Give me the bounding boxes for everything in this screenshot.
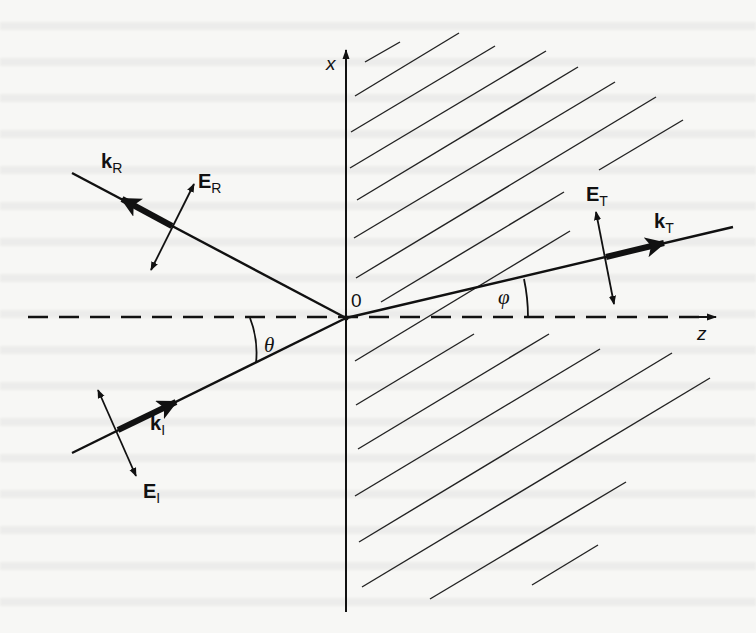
incident-e-label: EI — [143, 480, 160, 506]
phi-angle-label: φ — [498, 285, 510, 309]
reflected-k-label: kR — [101, 150, 122, 176]
origin-point — [344, 316, 349, 321]
transmitted-wave: kT ET — [346, 183, 733, 318]
theta-angle-arc — [250, 318, 257, 363]
z-axis-label: z — [696, 323, 707, 344]
reflected-e-label: ER — [198, 170, 221, 196]
incident-ray — [72, 318, 346, 453]
x-axis-label: x — [325, 53, 337, 74]
reflection-refraction-diagram: x z 0 kI EI kR ER kT ET — [0, 0, 756, 633]
phi-angle-arc — [524, 279, 528, 317]
incident-k-label: kI — [150, 412, 165, 438]
incident-wave: kI EI — [72, 318, 346, 506]
reflected-k-arrow — [122, 199, 172, 226]
transmitted-k-arrow — [606, 243, 664, 257]
reflected-wave: kR ER — [72, 150, 346, 318]
theta-angle-label: θ — [264, 333, 274, 357]
transmitted-k-label: kT — [654, 210, 674, 236]
reflected-e-vector — [151, 184, 194, 270]
origin-label: 0 — [351, 290, 362, 311]
transmitted-ray — [346, 227, 733, 318]
incident-k-arrow — [118, 402, 176, 430]
incident-e-vector — [98, 390, 136, 476]
reflected-ray — [72, 173, 346, 318]
transmitted-e-label: ET — [586, 183, 608, 209]
